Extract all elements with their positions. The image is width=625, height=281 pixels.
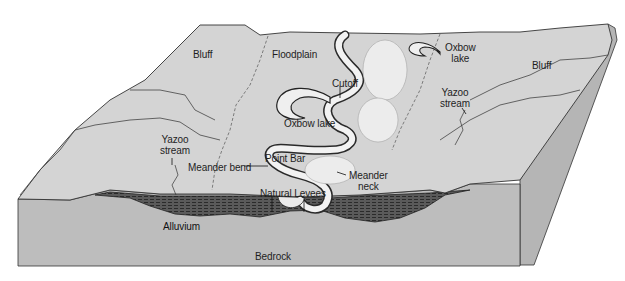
label-yazoo-stream-left: Yazoo stream [160, 134, 190, 156]
label-bluff-right: Bluff [532, 60, 551, 71]
label-meander-bend: Meander bend [188, 162, 251, 173]
label-oxbow-lake-top: Oxbow lake [445, 42, 476, 64]
label-meander-neck: Meander neck [349, 170, 388, 192]
point-bar-middle [358, 98, 398, 142]
label-cutoff: Cutoff [332, 78, 358, 89]
label-meander-neck-line1: Meander [349, 170, 388, 181]
block-diagram-graphic [0, 0, 625, 281]
label-bluff-left: Bluff [193, 49, 212, 60]
label-point-bar: Point Bar [265, 153, 305, 164]
label-floodplain: Floodplain [272, 49, 317, 60]
label-natural-levees: Natural Levees [260, 188, 326, 199]
point-bar-upper [363, 40, 407, 100]
label-yazoo-left-line1: Yazoo [160, 134, 190, 145]
floodplain-block-diagram: Bluff Floodplain Oxbow lake Bluff Cutoff… [0, 0, 625, 281]
label-oxbow-lake-middle: Oxbow lake [284, 118, 335, 129]
label-oxbow-lake-top-line1: Oxbow [445, 42, 476, 53]
point-bar-lower [305, 156, 355, 184]
label-bedrock: Bedrock [255, 251, 291, 262]
label-meander-neck-line2: neck [349, 181, 388, 192]
label-yazoo-right-line2: stream [440, 98, 470, 109]
label-alluvium: Alluvium [163, 221, 200, 232]
label-oxbow-lake-top-line2: lake [445, 53, 476, 64]
label-yazoo-right-line1: Yazoo [440, 87, 470, 98]
label-yazoo-left-line2: stream [160, 145, 190, 156]
label-yazoo-stream-right: Yazoo stream [440, 87, 470, 109]
